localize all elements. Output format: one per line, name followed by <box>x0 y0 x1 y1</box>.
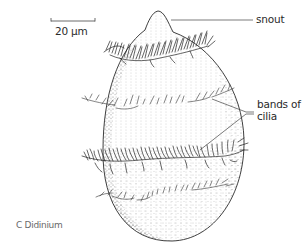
didinium-illustration: 20 µm snout bands of cilia C Didinium <box>0 0 308 252</box>
bands-of-cilia-label-line2: cilia <box>257 110 277 122</box>
body-stipple <box>100 10 250 245</box>
didinium-drawing <box>0 0 308 252</box>
bands-of-cilia-label-line1: bands of <box>257 98 301 110</box>
snout-label: snout <box>256 13 284 25</box>
scale-bar-label: 20 µm <box>55 25 88 37</box>
figure-caption: C Didinium <box>16 220 62 230</box>
scale-bar <box>51 18 95 22</box>
